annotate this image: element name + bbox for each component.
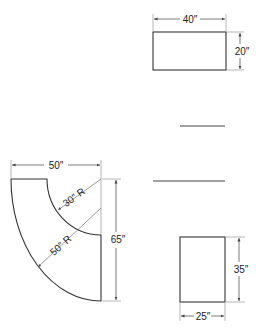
top-rectangle	[153, 32, 226, 70]
bottom-rectangle	[180, 237, 225, 302]
elbow-group: 50″ 65″ 30″ R 50″ R	[11, 160, 126, 301]
elbow-height-label: 65″	[111, 234, 126, 245]
inner-radius-label: 30″ R	[61, 185, 87, 208]
top-rectangle-group: 40″ 20″	[153, 14, 250, 70]
technical-drawing: 40″ 20″ 50″ 65″ 30″ R 50″ R	[0, 0, 265, 332]
top-height-label: 20″	[235, 46, 250, 57]
bottom-rectangle-group: 35″ 25″	[180, 237, 249, 322]
bottom-height-label: 35″	[234, 264, 249, 275]
outer-radius-label: 50″ R	[48, 233, 74, 258]
elbow-width-label: 50″	[49, 160, 64, 171]
top-width-label: 40″	[183, 14, 198, 25]
bottom-width-label: 25″	[196, 311, 211, 322]
elbow-shape	[11, 179, 101, 301]
